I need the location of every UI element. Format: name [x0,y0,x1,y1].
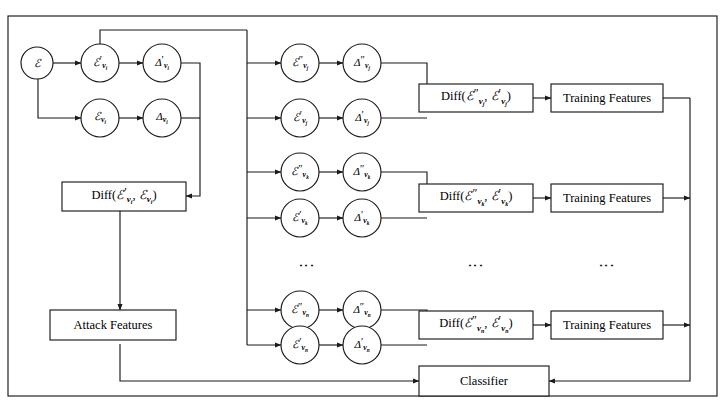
diagram-connectors [0,0,725,412]
architecture-diagram: ℰ ℰ′vi Δ′vi ℰvi Δvi ℰ″vj Δ″vj ℰ′vj Δ′vj … [0,0,725,412]
